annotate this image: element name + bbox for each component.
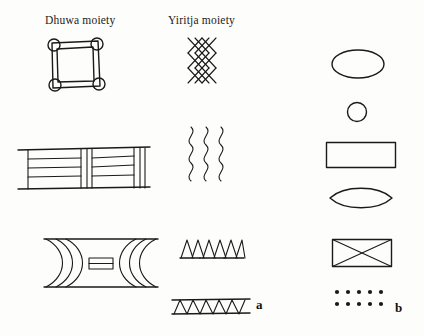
panel-label-a: a xyxy=(256,297,263,313)
motif-horizontal-banded-panel xyxy=(18,145,150,193)
column-header-dhuwa: Dhuwa moiety xyxy=(45,14,115,26)
motif-rectangle-with-cross xyxy=(331,238,393,268)
motif-zigzag-band xyxy=(172,297,250,317)
motif-wavy-lines xyxy=(186,127,230,181)
motif-circle-small xyxy=(345,100,369,124)
figure-root: Dhuwa moiety Yiritja moiety xyxy=(0,0,424,336)
motif-rectangle-plain xyxy=(325,141,397,169)
motif-ellipse-large xyxy=(330,47,386,81)
panel-label-b: b xyxy=(395,300,402,316)
column-header-yiritja: Yiritja moiety xyxy=(168,14,235,26)
motif-hourglass-bowtie xyxy=(44,234,158,292)
motif-lens-leaf xyxy=(328,183,394,213)
motif-triangle-row xyxy=(178,238,246,262)
motif-diamond-lattice xyxy=(182,38,224,88)
motif-dot-grid xyxy=(333,288,389,312)
motif-square-with-corner-circles xyxy=(44,36,106,94)
